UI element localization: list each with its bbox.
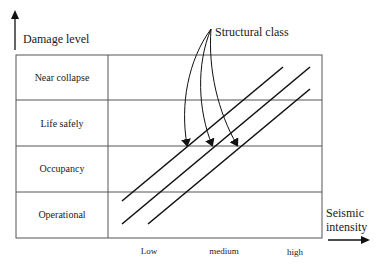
row-label-life-safely: Life safely <box>16 119 108 129</box>
x-tick-medium: medium <box>209 247 239 256</box>
class-line-3 <box>148 89 310 224</box>
y-axis-label: Damage level <box>23 33 89 45</box>
row-label-operational: Operational <box>16 210 108 220</box>
row-label-occupancy: Occupancy <box>16 164 108 174</box>
x-axis-label-line1: Seismic <box>326 207 364 219</box>
class-line-1 <box>122 67 283 201</box>
structural-class-label: Structural class <box>215 26 289 38</box>
y-axis-arrow <box>11 10 19 50</box>
x-tick-high: high <box>287 248 303 257</box>
x-tick-low: Low <box>141 247 158 256</box>
x-axis-arrow <box>328 236 370 244</box>
x-axis-label-line2: intensity <box>326 221 367 233</box>
row-label-near-collapse: Near collapse <box>16 73 108 83</box>
